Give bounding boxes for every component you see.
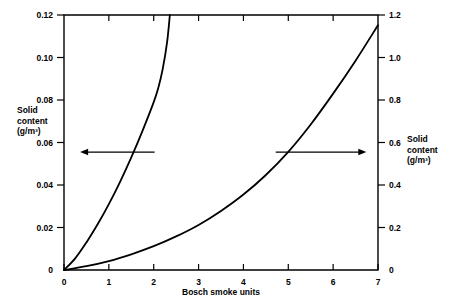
y-tick-label: 0 xyxy=(48,265,53,275)
left-axis-pointer-arrowhead-icon xyxy=(80,149,88,155)
y2-tick-label: 0.6 xyxy=(389,138,401,148)
y-axis-left-title-line3: (g/m³) xyxy=(17,126,41,136)
y-axis-right-title-line2: content xyxy=(407,145,438,155)
y-axis-right-tick-labels: 00.20.40.60.81.01.2 xyxy=(389,10,401,275)
y-axis-left-title-line1: Solid xyxy=(17,105,38,115)
data-curve-right-axis xyxy=(64,25,378,270)
plot-frame-border xyxy=(64,15,378,270)
y-axis-right-title-line3: (g/m³) xyxy=(407,155,431,165)
x-tick-label: 0 xyxy=(62,277,67,287)
y-axis-right-tick-marks xyxy=(378,15,385,228)
y-tick-label: 0.10 xyxy=(36,53,53,63)
chart-figure: 01234567 00.020.040.060.080.100.12 00.20… xyxy=(0,0,454,307)
x-tick-label: 3 xyxy=(196,277,201,287)
y-tick-label: 0.06 xyxy=(36,138,53,148)
y-axis-left-title-line2: content xyxy=(17,116,48,126)
y2-tick-label: 0.8 xyxy=(389,95,401,105)
y-axis-left-tick-labels: 00.020.040.060.080.100.12 xyxy=(36,10,53,275)
y2-tick-label: 0.2 xyxy=(389,223,401,233)
x-tick-label: 7 xyxy=(376,277,381,287)
x-axis-tick-labels: 01234567 xyxy=(62,277,381,287)
y-axis-left-title: Solid content (g/m³) xyxy=(17,105,48,136)
axis-pointer-annotations xyxy=(80,149,366,155)
chart-canvas: 01234567 00.020.040.060.080.100.12 00.20… xyxy=(0,0,454,307)
y-axis-right-title-line1: Solid xyxy=(407,134,428,144)
y2-tick-label: 1.2 xyxy=(389,10,401,20)
y2-tick-label: 0 xyxy=(389,265,394,275)
plot-frame xyxy=(64,15,378,270)
x-tick-label: 4 xyxy=(241,277,246,287)
x-axis-title: Bosch smoke units xyxy=(182,287,260,297)
y-axis-left-tick-marks xyxy=(57,15,64,228)
y2-tick-label: 0.4 xyxy=(389,180,401,190)
data-curve-left-axis xyxy=(64,15,170,270)
y-tick-label: 0.12 xyxy=(36,10,53,20)
x-tick-label: 5 xyxy=(286,277,291,287)
x-tick-label: 1 xyxy=(106,277,111,287)
x-tick-label: 6 xyxy=(331,277,336,287)
right-axis-pointer-arrowhead-icon xyxy=(358,149,366,155)
y-tick-label: 0.04 xyxy=(36,180,53,190)
x-tick-label: 2 xyxy=(151,277,156,287)
y-tick-label: 0.08 xyxy=(36,95,53,105)
data-curves xyxy=(64,15,378,270)
y2-tick-label: 1.0 xyxy=(389,53,401,63)
y-axis-right-title: Solid content (g/m³) xyxy=(407,134,438,165)
y-tick-label: 0.02 xyxy=(36,223,53,233)
x-axis-tick-marks xyxy=(64,15,378,270)
